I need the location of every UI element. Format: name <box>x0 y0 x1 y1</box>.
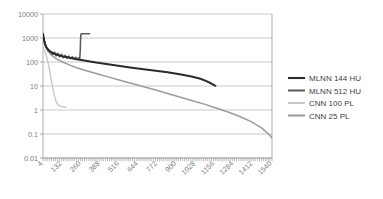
y-tick-label: 10000 <box>18 10 38 19</box>
x-tick-label: 1156 <box>199 159 216 176</box>
x-tick-label: 1540 <box>256 159 274 177</box>
x-tick-label: 516 <box>106 159 121 174</box>
legend-label: MLNN 144 HU <box>309 74 361 83</box>
legend-label: CNN 25 PL <box>309 112 350 121</box>
legend: MLNN 144 HUMLNN 512 HUCNN 100 PLCNN 25 P… <box>288 74 361 121</box>
x-tick-label: 644 <box>125 159 140 174</box>
y-tick-label: 0.1 <box>28 130 38 139</box>
y-tick-label: 10 <box>30 82 38 91</box>
x-tick-label: 132 <box>49 159 64 174</box>
legend-label: CNN 100 PL <box>309 99 354 108</box>
y-tick-label: 1000 <box>22 34 38 43</box>
x-tick-label: 260 <box>68 159 83 174</box>
y-tick-label: 1 <box>34 106 38 115</box>
x-tick-label: 388 <box>87 159 102 174</box>
line-chart: 1000010001001010.10.01413226038851664477… <box>0 0 383 199</box>
x-tick-label: 1284 <box>218 159 236 177</box>
chart-container: 1000010001001010.10.01413226038851664477… <box>0 0 383 199</box>
x-axis-ticks: 4132260388516644772900102811561284141215… <box>35 159 273 177</box>
x-tick-label: 900 <box>163 159 178 174</box>
x-tick-label: 772 <box>144 159 159 174</box>
y-axis-ticks: 1000010001001010.10.01 <box>18 10 43 163</box>
x-tick-label: 1412 <box>237 159 255 177</box>
x-tick-label: 1028 <box>179 159 197 177</box>
y-tick-label: 100 <box>26 58 38 67</box>
legend-label: MLNN 512 HU <box>309 87 361 96</box>
